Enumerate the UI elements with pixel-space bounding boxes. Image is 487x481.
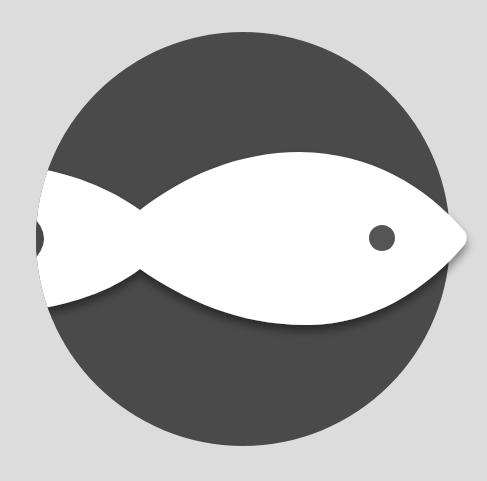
fish-icon-svg (0, 0, 487, 481)
fish-eye (369, 225, 395, 251)
fish-illustration (0, 0, 487, 481)
